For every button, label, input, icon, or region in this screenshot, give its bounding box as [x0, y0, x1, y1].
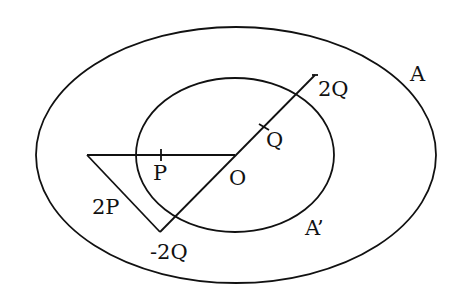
label-A: A	[409, 62, 426, 86]
label-A-prime: A’	[304, 216, 324, 240]
segment-neg2Q-2Q	[160, 75, 315, 232]
label-2Q: 2Q	[318, 77, 349, 101]
label-2P: 2P	[92, 195, 120, 219]
label-O: O	[229, 166, 246, 190]
label-neg2Q: -2Q	[150, 240, 188, 264]
diagram: A A’ O P 2P Q 2Q -2Q	[0, 0, 462, 301]
label-Q: Q	[266, 128, 283, 152]
label-P: P	[153, 161, 167, 185]
